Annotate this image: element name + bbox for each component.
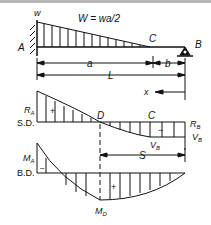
total-load-label: W = wa/2 [78, 13, 120, 24]
moment-diagram-label: B.D. [17, 168, 35, 178]
ma-label: MA [23, 153, 35, 164]
rb-label: RB [190, 119, 201, 130]
moment-positive-sign: + [111, 182, 116, 192]
load-intensity-label: w [34, 8, 41, 18]
vb-bottom-label: VB [150, 140, 160, 151]
shear-negative-sign: − [158, 125, 163, 135]
dim-a-label: a [87, 58, 93, 69]
fixed-end-label: A [17, 42, 25, 53]
md-label: MD [95, 206, 108, 217]
shear-diagram-label: S.D. [17, 118, 35, 128]
point-d-label: D [97, 110, 104, 121]
beam-diagram: w W = wa/2 A C B a b L x RA S.D. + D C −… [0, 0, 211, 225]
support-b-label: B [195, 39, 202, 50]
s-dim-label: S [139, 150, 146, 161]
moment-negative-sign: − [40, 164, 45, 173]
shear-positive-sign: + [50, 106, 55, 116]
fixed-support-A [30, 20, 37, 56]
pin-support-B [177, 47, 193, 56]
x-direction-arrow [155, 90, 185, 94]
shear-diagram [37, 91, 185, 150]
ra-label: RA [24, 105, 35, 116]
triangular-load [37, 22, 150, 47]
dim-l-label: L [108, 70, 114, 81]
vb-right-label: VB [192, 132, 202, 143]
point-c-label: C [149, 33, 157, 44]
dim-b-label: b [165, 58, 171, 69]
x-axis-label: x [143, 87, 149, 97]
shear-point-c-label: C [148, 110, 156, 121]
